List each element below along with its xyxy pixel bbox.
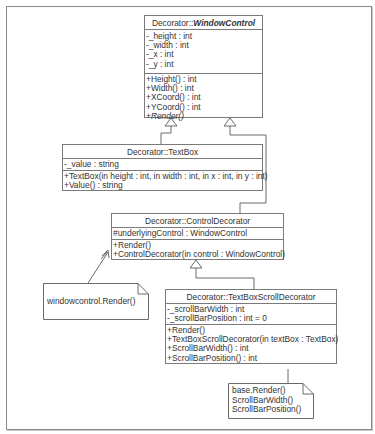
class-title: Decorator::ControlDecorator — [145, 216, 250, 226]
methods-section: +Render() +ControlDecorator(in control :… — [112, 240, 283, 259]
class-text-box[interactable]: Decorator::TextBox -_value : string +Tex… — [62, 144, 263, 191]
class-header: Decorator::ControlDecorator — [112, 214, 283, 228]
method: +ScrollBarPosition() : int — [167, 354, 336, 363]
class-text-box-scroll-decorator[interactable]: Decorator::TextBoxScrollDecorator -_scro… — [165, 289, 337, 364]
note-scroll-decorator[interactable]: base.Render() ScrollBarWidth() ScrollBar… — [232, 386, 301, 415]
attribute: -_y : int — [146, 60, 262, 69]
method: +ControlDecorator(in control : WindowCon… — [113, 250, 283, 259]
attributes-section: -_height : int -_width : int -_x : int -… — [145, 30, 262, 74]
class-control-decorator[interactable]: Decorator::ControlDecorator #underlyingC… — [111, 213, 284, 260]
method: +Value() : string — [64, 181, 262, 190]
attributes-section: -_value : string — [63, 159, 262, 171]
class-title: Decorator::TextBoxScrollDecorator — [187, 292, 316, 302]
methods-section: +TextBox(in height : int, in width : int… — [63, 171, 262, 190]
class-header: Decorator::TextBox — [63, 145, 262, 159]
attribute: -_value : string — [64, 160, 262, 169]
methods-section: +Height() : int +Width() : int +XCoord()… — [145, 74, 262, 121]
method-abstract: +Render() — [146, 112, 262, 121]
class-title: Decorator::TextBox — [127, 147, 198, 157]
attributes-section: #underlyingControl : WindowControl — [112, 228, 283, 240]
attribute: #underlyingControl : WindowControl — [113, 229, 283, 238]
attributes-section: -_scrollBarWidth : int -_scrollBarPositi… — [166, 304, 336, 325]
note-line: windowcontrol.Render() — [47, 297, 135, 307]
class-name: WindowControl — [193, 18, 255, 28]
class-window-control[interactable]: Decorator::WindowControl -_height : int … — [144, 15, 263, 118]
note-control-decorator[interactable]: windowcontrol.Render() — [47, 297, 135, 307]
attribute: -_scrollBarPosition : int = 0 — [167, 314, 336, 323]
methods-section: +Render() +TextBoxScrollDecorator(in tex… — [166, 325, 336, 363]
class-header: Decorator::TextBoxScrollDecorator — [166, 290, 336, 304]
note-line: ScrollBarPosition() — [232, 405, 301, 415]
class-namespace: Decorator:: — [152, 18, 193, 28]
class-header: Decorator::WindowControl — [145, 16, 262, 30]
